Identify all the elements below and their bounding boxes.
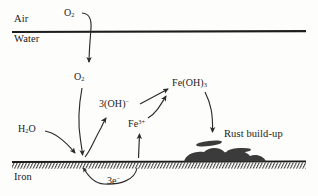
arrow-surface-to-hydroxide: [85, 118, 106, 157]
label-oxygen-water: O2: [74, 72, 85, 82]
rust-flake-floating-1: [196, 139, 222, 147]
hydroxide-symbol: 3(OH): [99, 98, 126, 109]
water-surface-line: [12, 31, 306, 32]
rusting-diagram: Air Water Iron O2 O2 H2O 3(OH)− Fe3+ Fe(…: [0, 0, 318, 196]
rust-deposits: [184, 139, 266, 161]
water-molecule-tail: O: [29, 123, 36, 134]
electrons-charge: −: [117, 175, 121, 182]
label-electrons: 3e−: [107, 176, 120, 186]
label-rust-buildup: Rust build-up: [224, 129, 283, 140]
arrow-surface-to-iron-ion: [139, 134, 140, 158]
iron-surface: [12, 161, 306, 168]
iron-ion-symbol: Fe: [128, 118, 138, 129]
iron-hydroxide-subscript: 3: [204, 81, 207, 88]
label-oxygen-air: O2: [64, 8, 75, 18]
label-air: Air: [14, 14, 28, 25]
arrow-iron-ion-to-iron-hydroxide: [148, 96, 166, 118]
arrow-hydroxide-to-iron-hydroxide: [140, 89, 168, 104]
oxygen-air-subscript: 2: [71, 11, 74, 18]
diagram-canvas: [0, 0, 318, 196]
iron-hydroxide-symbol: Fe(OH): [172, 77, 204, 88]
arrow-iron-hydroxide-to-rust: [205, 92, 213, 132]
arrow-o2-air-to-water: [82, 13, 91, 62]
label-iron-hydroxide: Fe(OH)3: [172, 78, 207, 88]
arrow-h2o-to-surface: [45, 131, 75, 153]
electrons-symbol: 3e: [107, 175, 117, 186]
rust-flake-small: [215, 154, 231, 160]
label-water: Water: [14, 34, 39, 45]
oxygen-water-subscript: 2: [81, 75, 84, 82]
label-hydroxide: 3(OH)−: [99, 99, 129, 109]
hydroxide-charge: −: [126, 98, 130, 105]
arrow-o2-to-surface: [79, 88, 83, 155]
iron-ion-charge: 3+: [138, 118, 145, 125]
label-iron: Iron: [14, 172, 32, 183]
label-water-molecule: H2O: [18, 124, 36, 134]
label-iron-ion: Fe3+: [128, 119, 145, 129]
